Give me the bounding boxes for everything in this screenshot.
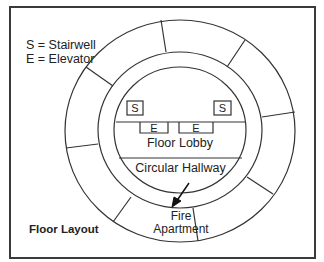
fire-apartment-label: Fire Apartment	[146, 210, 216, 236]
diagram-title: Floor Layout	[29, 223, 99, 235]
legend-item-stairwell: S = Stairwell	[26, 38, 96, 52]
stairwell-right-label: S	[214, 101, 231, 115]
divider-upper-right	[227, 40, 245, 67]
legend: S = Stairwell E = Elevator	[26, 38, 96, 66]
divider-lower-right	[247, 177, 273, 194]
stairwell-left-label: S	[127, 101, 143, 115]
elevator-left-label: E	[140, 122, 168, 134]
divider-left	[66, 144, 98, 148]
legend-item-elevator: E = Elevator	[26, 52, 96, 66]
elevator-right-label: E	[179, 122, 213, 134]
arrow-icon	[172, 183, 189, 207]
divider-top	[161, 20, 166, 52]
floor-layout-diagram: S = Stairwell E = Elevator S S E E Floor…	[0, 0, 324, 262]
fire-apartment-line2: Apartment	[146, 223, 216, 236]
divider-lower-left	[113, 197, 131, 222]
circular-hallway-label: Circular Hallway	[128, 161, 233, 175]
floor-lobby-label: Floor Lobby	[140, 136, 220, 150]
divider-upper-left	[86, 67, 113, 86]
divider-right	[262, 112, 295, 117]
